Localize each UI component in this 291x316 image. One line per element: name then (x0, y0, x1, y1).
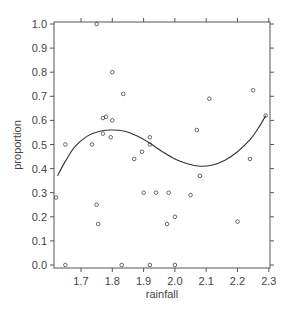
data-point (248, 157, 252, 161)
data-point (264, 114, 268, 118)
x-tick-label: 1.9 (136, 275, 151, 287)
data-point (251, 88, 255, 92)
x-tick-label: 1.7 (73, 275, 88, 287)
data-point (95, 22, 99, 26)
x-tick-label: 2.3 (261, 275, 276, 287)
data-point (109, 135, 113, 139)
data-point (142, 191, 146, 195)
data-point (121, 92, 125, 96)
y-tick-label: 0.0 (32, 259, 47, 271)
data-point (64, 263, 68, 267)
data-point (167, 191, 171, 195)
x-tick-label: 2.1 (199, 275, 214, 287)
x-tick-label: 1.8 (105, 275, 120, 287)
data-point (101, 132, 105, 136)
data-point (173, 215, 177, 219)
scatter-chart: 0.00.10.20.30.40.50.60.70.80.91.0 1.71.8… (0, 0, 291, 316)
y-tick-label: 0.3 (32, 187, 47, 199)
y-tick-label: 0.2 (32, 211, 47, 223)
data-point (140, 150, 144, 154)
y-tick-label: 0.7 (32, 90, 47, 102)
data-point (148, 135, 152, 139)
fitted-curve-line (58, 116, 266, 176)
data-point (208, 97, 212, 101)
plot-frame (54, 22, 270, 268)
data-point (154, 191, 158, 195)
fitted-curve (58, 116, 266, 176)
data-point (165, 222, 169, 226)
y-tick-label: 0.8 (32, 66, 47, 78)
data-point (173, 263, 177, 267)
data-point (195, 128, 199, 132)
y-axis-title: proportion (11, 120, 23, 170)
data-point (104, 115, 108, 119)
y-tick-label: 0.5 (32, 139, 47, 151)
y-tick-label: 1.0 (32, 18, 47, 30)
y-tick-label: 0.9 (32, 42, 47, 54)
data-point (236, 220, 240, 224)
data-point (90, 143, 94, 147)
y-tick-label: 0.6 (32, 114, 47, 126)
x-axis-title: rainfall (146, 288, 178, 300)
data-point (96, 222, 100, 226)
y-tick-label: 0.4 (32, 163, 47, 175)
data-point (64, 143, 68, 147)
plot-border (54, 22, 270, 268)
y-axis: 0.00.10.20.30.40.50.60.70.80.91.0 (32, 18, 274, 271)
data-point (54, 196, 58, 200)
data-point (198, 174, 202, 178)
data-point (120, 263, 124, 267)
data-point (189, 193, 193, 197)
data-point (111, 119, 115, 123)
x-axis: 1.71.81.92.02.12.22.3 (73, 18, 276, 287)
data-points (54, 22, 267, 267)
y-tick-label: 0.1 (32, 235, 47, 247)
data-point (132, 157, 136, 161)
x-tick-label: 2.2 (230, 275, 245, 287)
data-point (95, 203, 99, 207)
x-tick-label: 2.0 (167, 275, 182, 287)
data-point (148, 263, 152, 267)
data-point (111, 70, 115, 74)
